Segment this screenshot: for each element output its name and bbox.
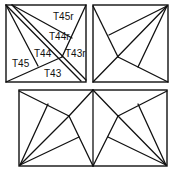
label-t43: T43 — [44, 68, 62, 79]
panel-top-right — [93, 5, 168, 82]
label-t44: T44 — [34, 48, 52, 59]
label-t44r: T44r — [49, 31, 70, 42]
triangulation-diagram: T45r T44r T43r T44 T45 T43 — [0, 0, 175, 176]
label-t45r: T45r — [53, 11, 74, 22]
label-t43r: T43r — [65, 48, 86, 59]
label-t45: T45 — [12, 58, 30, 69]
panel-bottom — [19, 90, 167, 166]
panel-top-left: T45r T44r T43r T44 T45 T43 — [6, 5, 86, 82]
